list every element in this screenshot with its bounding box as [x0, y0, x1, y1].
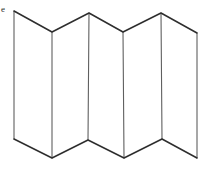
folding-screen-drawing: [0, 0, 201, 174]
figure-canvas: e: [0, 0, 201, 174]
fold-line: [123, 32, 124, 158]
fold-line: [161, 13, 162, 139]
fold-line: [88, 13, 89, 140]
top-edge: [14, 11, 197, 33]
bottom-edge: [14, 139, 197, 158]
